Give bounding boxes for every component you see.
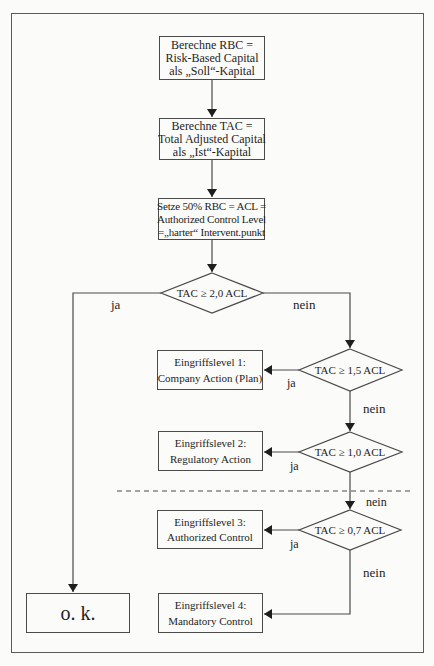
process-text: Authorized Control Level [157, 213, 266, 226]
process-box-acl: Setze 50% RBC = ACL = Authorized Control… [158, 198, 265, 240]
process-box-tac: Berechne TAC = Total Adjusted Capital al… [159, 118, 265, 160]
process-text: Berechne RBC = [171, 39, 253, 52]
level-box-4: Eingriffslevel 4: Mandatory Control [158, 593, 263, 633]
level-title: Eingriffslevel 2: [175, 437, 247, 449]
edge-label-d4-yes: ja [290, 537, 299, 552]
edge-label-d4-no: nein [363, 565, 385, 581]
decision-label-d1: TAC ≥ 2,0 ACL [177, 287, 248, 299]
edge-label-d3-yes: ja [290, 459, 299, 474]
edge-label-d3-no: nein [366, 495, 387, 510]
process-text: Setze 50% RBC = ACL = [157, 200, 266, 213]
edge-label-d2-no: nein [363, 401, 385, 417]
level-action: Authorized Control [167, 531, 253, 543]
process-text: =„harter“ Intervent.punkt [158, 226, 265, 239]
ok-box: o. k. [26, 593, 130, 633]
process-text: als „Soll“-Kapital [169, 65, 255, 78]
ok-label: o. k. [61, 602, 96, 625]
edge-label-d1-no: nein [293, 297, 315, 313]
arrow-d1-yes-to-ok [73, 293, 161, 592]
level-box-1: Eingriffslevel 1: Company Action (Plan) [157, 350, 263, 390]
level-title: Eingriffslevel 1: [174, 356, 246, 368]
process-box-rbc: Berechne RBC = Risk-Based Capital als „S… [159, 36, 265, 80]
level-box-3: Eingriffslevel 3: Authorized Control [157, 510, 263, 549]
process-text: als „Ist“-Kapital [173, 146, 251, 159]
decision-label-d3: TAC ≥ 1,0 ACL [315, 446, 386, 458]
flowchart-canvas: Berechne RBC = Risk-Based Capital als „S… [0, 0, 434, 666]
level-action: Regulatory Action [170, 453, 251, 465]
decision-label-d2: TAC ≥ 1,5 ACL [315, 364, 386, 376]
edge-label-d2-yes: ja [287, 376, 296, 391]
process-text: Risk-Based Capital [166, 52, 259, 65]
level-action: Mandatory Control [168, 615, 253, 627]
level-action: Company Action (Plan) [158, 372, 263, 384]
process-text: Total Adjusted Capital [158, 133, 266, 146]
decision-label-d4: TAC ≥ 0,7 ACL [315, 524, 386, 536]
level-title: Eingriffslevel 3: [174, 516, 246, 528]
process-text: Berechne TAC = [172, 120, 253, 133]
level-title: Eingriffslevel 4: [175, 599, 247, 611]
edge-label-d1-yes: ja [111, 297, 120, 313]
level-box-2: Eingriffslevel 2: Regulatory Action [158, 431, 263, 471]
arrow-d4-no-to-l4 [264, 550, 350, 614]
